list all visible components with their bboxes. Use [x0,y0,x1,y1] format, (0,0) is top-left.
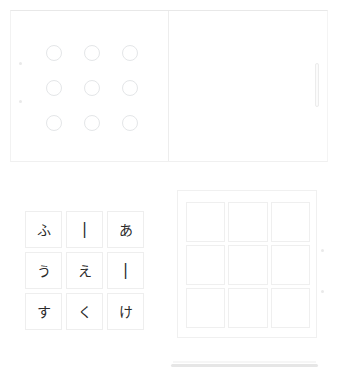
resize-handle-dot-lower-icon[interactable] [321,290,324,293]
drop-cell[interactable] [186,245,225,285]
circle-slot[interactable] [35,105,73,140]
drop-cell[interactable] [271,245,310,285]
circle-slot[interactable] [35,70,73,105]
hiragana-tile[interactable]: く [66,293,103,330]
circle-slot[interactable] [73,35,111,70]
drop-cell[interactable] [228,202,267,242]
empty-drop-target-grid [186,202,310,328]
drop-cell[interactable] [186,202,225,242]
hiragana-tile[interactable]: | [107,252,144,289]
circle-icon [122,115,138,131]
circle-icon [84,45,100,61]
circle-icon [46,115,62,131]
circle-icon [46,45,62,61]
horizontal-scrollbar[interactable] [171,364,318,367]
circle-slot[interactable] [73,70,111,105]
circle-target-pane [11,11,167,161]
empty-content-pane [169,11,327,161]
horizontal-scrollbar-shadow [173,361,316,363]
resize-handle-dot-upper-icon[interactable] [19,62,22,65]
circle-slot[interactable] [111,105,149,140]
drop-cell[interactable] [228,288,267,328]
hiragana-tile[interactable]: | [66,211,103,248]
hiragana-tile[interactable]: あ [107,211,144,248]
top-panel-pair [10,10,328,162]
circle-slot[interactable] [111,35,149,70]
resize-handle-dot-lower-icon[interactable] [19,100,22,103]
resize-handle-dot-upper-icon[interactable] [321,249,324,252]
hiragana-tile[interactable]: え [66,252,103,289]
circle-icon [46,80,62,96]
hiragana-tile[interactable]: け [107,293,144,330]
circle-icon [84,80,100,96]
circle-icon [122,80,138,96]
circle-target-grid [35,35,149,140]
drop-target-panel [177,190,317,338]
vertical-scrollbar[interactable] [315,63,319,107]
hiragana-tile[interactable]: す [25,293,62,330]
drop-cell[interactable] [186,288,225,328]
circle-icon [84,115,100,131]
circle-icon [122,45,138,61]
drop-cell[interactable] [271,288,310,328]
app-root: ふ | あ う え | す く け [0,0,338,390]
drop-cell[interactable] [228,245,267,285]
circle-slot[interactable] [111,70,149,105]
hiragana-tile[interactable]: ふ [25,211,62,248]
hiragana-source-tiles: ふ | あ う え | す く け [25,211,144,330]
hiragana-tile[interactable]: う [25,252,62,289]
drop-cell[interactable] [271,202,310,242]
circle-slot[interactable] [35,35,73,70]
circle-slot[interactable] [73,105,111,140]
